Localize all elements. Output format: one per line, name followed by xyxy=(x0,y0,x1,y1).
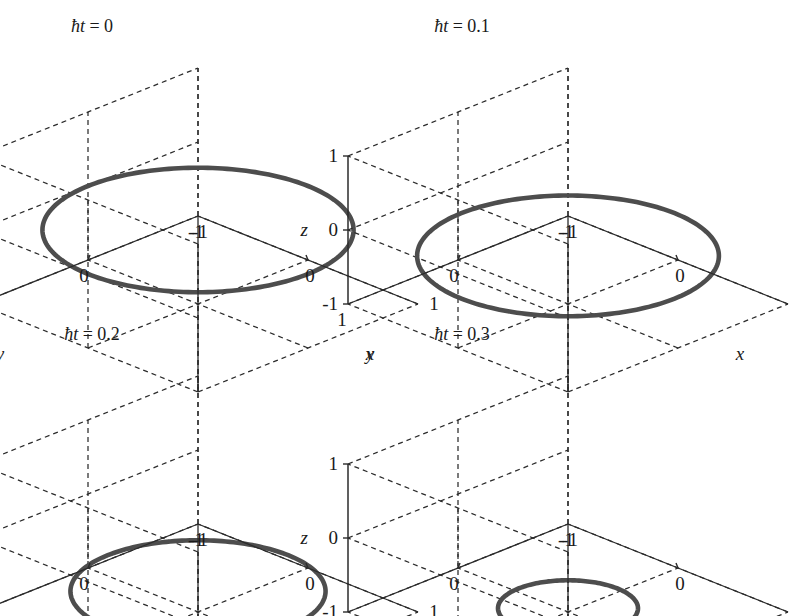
x-ticklabel: -1 xyxy=(562,221,578,242)
wall-y-bottom xyxy=(0,524,198,612)
panel-title: ħt = 0.2 xyxy=(64,324,120,344)
z-ticklabel: 1 xyxy=(329,453,339,474)
x-ticklabel: 0 xyxy=(675,573,685,594)
floor-ygrid xyxy=(568,612,788,616)
wall-x-bottom xyxy=(0,612,198,616)
figure-3d-ring-evolution: 10-1z10-1y-101xħt = 0 10-1z10-1y-101xħt … xyxy=(0,0,793,616)
wall-y-top xyxy=(0,376,198,464)
y-ticklabel: 0 xyxy=(449,265,459,286)
wall-y-zgrid xyxy=(0,450,198,538)
x-ticklabel: -1 xyxy=(192,529,208,550)
plot-panel: 10-1z10-1y-101xħt = 0.1 xyxy=(370,0,766,308)
wall-x-top xyxy=(0,464,198,552)
y-ticklabel: 0 xyxy=(79,573,89,594)
y-ticklabel: 0 xyxy=(449,573,459,594)
plot-panel: 10-1z10-1y-101xħt = 0.3 xyxy=(370,308,766,616)
wall-y-top xyxy=(0,68,198,156)
y-ticklabel: 0 xyxy=(79,265,89,286)
z-ticklabel: -1 xyxy=(322,601,338,616)
front-edges-group xyxy=(0,524,418,616)
panel-title: ħt = 0 xyxy=(71,16,113,36)
grid-group xyxy=(0,376,418,616)
panel-title: ħt = 0.3 xyxy=(434,324,490,344)
x-ticklabel: 0 xyxy=(675,265,685,286)
x-ticklabel: 0 xyxy=(305,265,315,286)
x-ticklabel: 0 xyxy=(305,573,315,594)
wall-x-zgrid xyxy=(0,230,198,318)
z-axis-label: z xyxy=(300,219,309,240)
z-ticklabel: 0 xyxy=(329,527,339,548)
wall-x-zgrid xyxy=(0,538,198,616)
x-ticklabel: -1 xyxy=(562,529,578,550)
x-ticklabel: -1 xyxy=(192,221,208,242)
axis-group: 10-1z10-1y-101x xyxy=(300,453,793,616)
axes-3d: 10-1z10-1y-101xħt = 0.1 xyxy=(370,0,766,308)
z-ticklabel: 0 xyxy=(329,219,339,240)
axes-3d: 10-1z10-1y-101xħt = 0.3 xyxy=(370,308,766,616)
z-ticklabel: 1 xyxy=(329,145,339,166)
wall-y-zgrid xyxy=(0,142,198,230)
floor-edge-front-left xyxy=(0,524,198,612)
z-axis-label: z xyxy=(300,527,309,548)
panel-title: ħt = 0.1 xyxy=(434,16,490,36)
